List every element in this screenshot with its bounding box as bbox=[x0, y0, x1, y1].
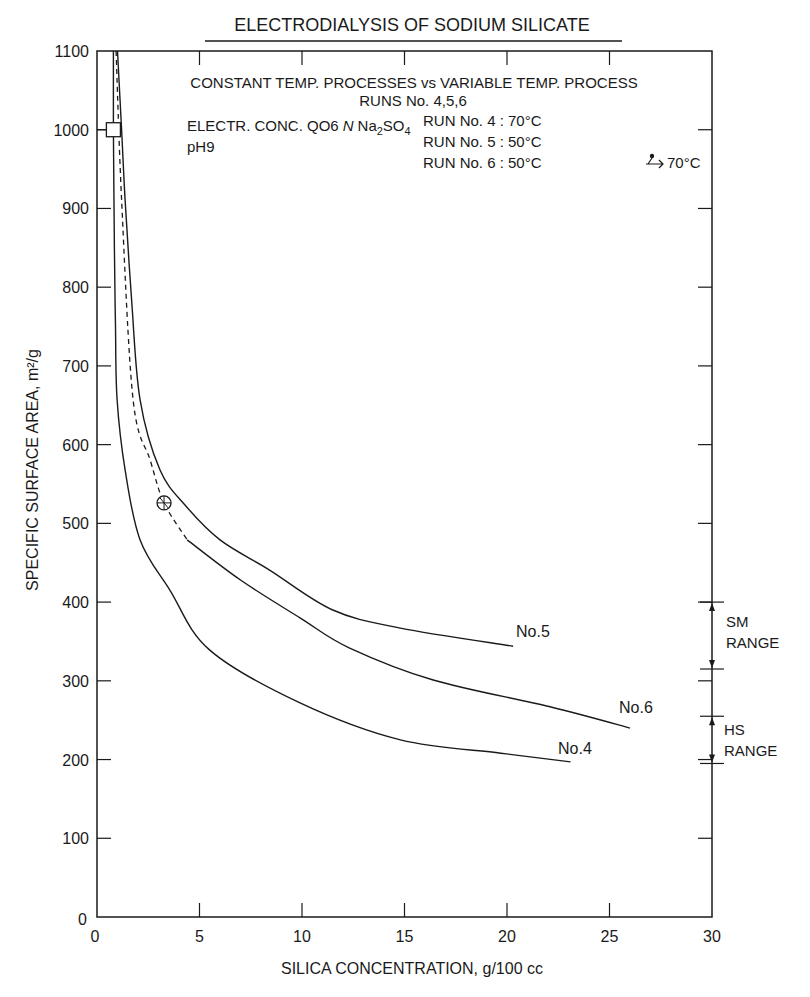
hs-range-arrow-up-icon bbox=[709, 717, 715, 725]
chart: ELECTRODIALYSIS OF SODIUM SILICATE 05101… bbox=[0, 0, 810, 997]
electrolyte-normality: N bbox=[343, 117, 354, 134]
legend-run-5: RUN No. 5 : 50°C bbox=[423, 133, 542, 150]
sm-range-arrow-up-icon bbox=[709, 603, 715, 611]
arrow-icon bbox=[646, 154, 663, 168]
series-label-no6: No.6 bbox=[619, 699, 653, 716]
annotation-heading: CONSTANT TEMP. PROCESSES vs VARIABLE TEM… bbox=[190, 74, 637, 91]
chart-title: ELECTRODIALYSIS OF SODIUM SILICATE bbox=[234, 15, 589, 35]
y-tick-label: 200 bbox=[62, 752, 89, 769]
y-tick-label: 500 bbox=[62, 515, 89, 532]
y-axis-label: SPECIFIC SURFACE AREA, m²/g bbox=[24, 349, 41, 591]
hs-range-arrow-down-icon bbox=[709, 754, 715, 762]
y-tick-label: 1100 bbox=[55, 43, 90, 60]
sm-range-label-1: SM bbox=[726, 613, 749, 630]
legend-run-4: RUN No. 4 : 70°C bbox=[423, 112, 542, 129]
y-tick-label: 700 bbox=[62, 358, 89, 375]
electrolyte-salt-b: SO bbox=[383, 117, 405, 134]
annotation-ph: pH9 bbox=[187, 138, 215, 155]
square-marker bbox=[106, 123, 120, 137]
y-tick-label: 300 bbox=[62, 673, 89, 690]
legend-run-6-prefix: RUN No. 6 : 50°C bbox=[423, 154, 542, 171]
plot-frame bbox=[97, 51, 712, 917]
y-tick-label: 900 bbox=[62, 200, 89, 217]
x-axis-label: SILICA CONCENTRATION, g/100 cc bbox=[281, 960, 543, 977]
y-tick-label: 400 bbox=[62, 594, 89, 611]
curves bbox=[113, 51, 630, 762]
series-no6 bbox=[187, 540, 630, 728]
y-tick-label: 1000 bbox=[53, 122, 89, 139]
axis-ticks bbox=[97, 51, 712, 917]
electrolyte-sub-b: 4 bbox=[405, 125, 411, 137]
annotation-runs: RUNS No. 4,5,6 bbox=[359, 92, 467, 109]
x-tick-label: 10 bbox=[293, 928, 311, 945]
hs-range-label-1: HS bbox=[724, 721, 745, 738]
series-no6-dashed bbox=[116, 51, 187, 540]
hs-range-label-2: RANGE bbox=[724, 742, 777, 759]
x-tick-label: 30 bbox=[703, 928, 721, 945]
y-tick-label: 800 bbox=[62, 279, 89, 296]
series-label-no5: No.5 bbox=[516, 623, 550, 640]
legend-run-6-suffix: 70°C bbox=[667, 154, 701, 171]
x-tick-label: 20 bbox=[498, 928, 516, 945]
x-tick-label: 5 bbox=[195, 928, 204, 945]
annotation-electrolyte: ELECTR. CONC. QO6NNa2SO4 bbox=[187, 117, 411, 137]
circle-cross-marker bbox=[157, 496, 171, 510]
y-tick-label: 100 bbox=[62, 830, 89, 847]
electrolyte-prefix: ELECTR. CONC. QO6 bbox=[187, 117, 339, 134]
x-tick-label: 25 bbox=[601, 928, 619, 945]
sm-range-arrow-down-icon bbox=[709, 660, 715, 668]
x-tick-label: 15 bbox=[396, 928, 414, 945]
markers bbox=[97, 123, 171, 510]
axis-tick-labels: 0510152025300100200300400500600700800900… bbox=[53, 43, 721, 945]
electrolyte-salt-a: Na bbox=[358, 117, 378, 134]
series-label-no4: No.4 bbox=[558, 740, 592, 757]
y-tick-label: 0 bbox=[78, 911, 87, 928]
x-tick-label: 0 bbox=[91, 928, 100, 945]
sm-range-label-2: RANGE bbox=[726, 634, 779, 651]
y-tick-label: 600 bbox=[62, 437, 89, 454]
